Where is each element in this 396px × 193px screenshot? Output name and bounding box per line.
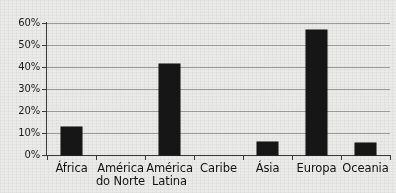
y-axis-tick-label: 20%: [0, 106, 40, 116]
gridline: [47, 89, 390, 90]
y-axis-tick-label: 30%: [0, 84, 40, 94]
x-axis-tick: [390, 155, 391, 160]
x-axis-category-label-line1: Europa: [297, 161, 337, 175]
x-axis-category-label-line1: Oceania: [342, 161, 388, 175]
gridline: [47, 23, 390, 24]
plot-area: [47, 23, 390, 155]
x-axis-tick: [194, 155, 195, 160]
bar: [306, 30, 327, 155]
bar: [61, 127, 82, 155]
x-axis-tick: [47, 155, 48, 160]
x-axis-category-label-line1: Ásia: [256, 161, 280, 175]
x-axis-tick: [96, 155, 97, 160]
gridline: [47, 45, 390, 46]
bar: [355, 143, 376, 155]
y-axis-tick-label: 60%: [0, 18, 40, 28]
y-axis-tick-label: 40%: [0, 62, 40, 72]
gridline: [47, 111, 390, 112]
chart-page: 0%10%20%30%40%50%60% ÁfricaAméricado Nor…: [0, 0, 396, 193]
x-axis-category-label-line1: África: [55, 161, 87, 175]
x-axis-category-label-line1: Caribe: [200, 161, 237, 175]
y-axis-tick-label: 0%: [0, 150, 40, 160]
axis-baseline: [47, 155, 390, 156]
x-axis-tick: [145, 155, 146, 160]
bar: [257, 142, 278, 155]
x-axis-tick: [243, 155, 244, 160]
bar-chart: 0%10%20%30%40%50%60% ÁfricaAméricado Nor…: [0, 0, 396, 193]
y-axis-tick-label: 10%: [0, 128, 40, 138]
x-axis-category-label-line2: Latina: [138, 175, 201, 188]
x-axis-category-label-line1: América: [146, 161, 193, 175]
y-axis-tick-label: 50%: [0, 40, 40, 50]
x-axis-category-label: Oceania: [334, 162, 396, 175]
x-axis-tick: [341, 155, 342, 160]
bar: [159, 64, 180, 155]
x-axis-tick: [292, 155, 293, 160]
gridline: [47, 67, 390, 68]
x-axis-category-label-line1: América: [97, 161, 144, 175]
gridline: [47, 133, 390, 134]
